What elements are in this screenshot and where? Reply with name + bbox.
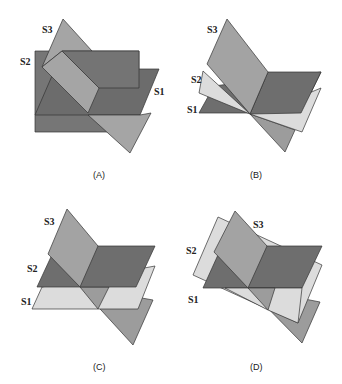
panel-a-label-s2: S2 [20, 56, 31, 67]
panel-d-caption: (D) [250, 362, 263, 372]
panel-c-label-s1: S1 [21, 296, 32, 307]
panel-a: S3 S2 S1 (A) [20, 19, 165, 180]
panel-d-label-s3: S3 [253, 219, 264, 230]
figure-canvas: S3 S2 S1 (A) S3 S2 S1 (B) S3 S2 S1 ( [0, 0, 342, 384]
panel-a-plane-s3-bottom [88, 113, 151, 153]
panel-c-caption: (C) [93, 362, 106, 372]
panel-b: S3 S2 S1 (B) [187, 19, 321, 180]
panel-a-label-s1: S1 [154, 86, 165, 97]
panel-d-label-s1: S1 [188, 294, 199, 305]
panel-b-label-s3: S3 [207, 24, 218, 35]
panel-b-label-s2: S2 [191, 74, 202, 85]
panel-d-label-s2: S2 [186, 245, 197, 256]
panel-a-label-s3: S3 [42, 24, 53, 35]
panel-c-label-s2: S2 [27, 263, 38, 274]
panel-b-caption: (B) [250, 170, 262, 180]
panel-c: S3 S2 S1 (C) [21, 209, 155, 372]
panel-d: S3 S2 S1 (D) [186, 211, 322, 372]
panel-b-label-s1: S1 [187, 104, 198, 115]
panel-c-label-s3: S3 [44, 216, 55, 227]
panel-a-caption: (A) [93, 170, 105, 180]
